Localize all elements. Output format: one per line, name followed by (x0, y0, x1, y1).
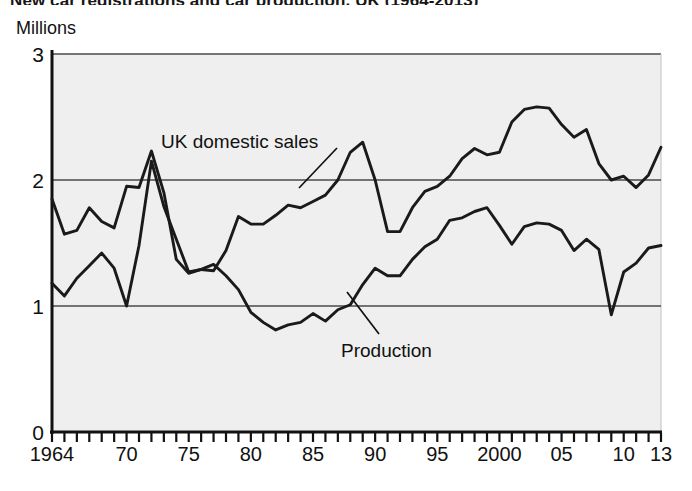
y-tick-label-1: 1 (32, 295, 44, 318)
line-chart-plot: 0123 19647075808590952000051013 UK domes… (0, 0, 692, 491)
y-tick-label-0: 0 (32, 421, 44, 444)
x-tick-label-95: 95 (426, 443, 448, 465)
x-axis-ticks (52, 433, 661, 442)
x-tick-label-90: 90 (364, 443, 386, 465)
chart-figure: New car registrations and car production… (0, 0, 692, 491)
y-tick-label-3: 3 (32, 43, 44, 66)
x-tick-label-05: 05 (550, 443, 572, 465)
x-axis-tick-labels: 19647075808590952000051013 (30, 443, 672, 465)
x-tick-label-75: 75 (178, 443, 200, 465)
annotation-production: Production (341, 340, 432, 361)
x-tick-label-85: 85 (302, 443, 324, 465)
x-tick-label-1964: 1964 (30, 443, 75, 465)
x-tick-label-10: 10 (613, 443, 635, 465)
x-tick-label-2000: 2000 (477, 443, 522, 465)
x-tick-label-70: 70 (115, 443, 137, 465)
annotation-uk-domestic-sales: UK domestic sales (161, 131, 318, 152)
x-tick-label-13: 13 (650, 443, 672, 465)
x-tick-label-80: 80 (240, 443, 262, 465)
y-axis-tick-labels: 0123 (32, 43, 44, 444)
y-tick-label-2: 2 (32, 169, 44, 192)
